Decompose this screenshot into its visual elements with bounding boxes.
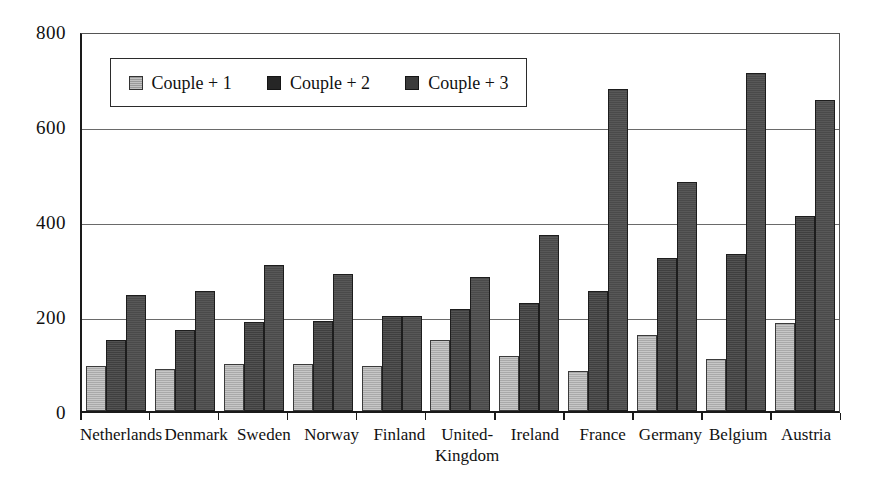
bar-3 [333,274,353,411]
legend-label-couple-1: Couple + 1 [152,74,232,92]
bar-1 [430,340,450,411]
bar-3 [402,316,422,411]
legend-item-couple-1: Couple + 1 [111,74,249,92]
bar-2 [382,316,402,411]
x-axis-category-label: Netherlands [80,424,162,474]
x-axis-tick [218,413,287,421]
x-axis-category-label: United- Kingdom [433,424,501,474]
x-axis-category-label: Germany [637,424,705,474]
chart-figure: 0200400600800 NetherlandsDenmarkSwedenNo… [0,0,874,477]
bar-1 [293,364,313,411]
bar-2 [726,254,746,411]
bar-1 [568,371,588,411]
y-axis-tick-labels: 0200400600800 [0,0,74,477]
x-axis-tick [425,413,494,421]
legend-swatch-icon-couple-3 [405,76,419,90]
y-axis-tick-label: 200 [36,308,66,327]
x-axis-tick [564,413,633,421]
x-axis-tick [633,413,702,421]
y-axis-tick-label: 800 [36,23,66,42]
bar-1 [775,323,795,411]
bar-3 [470,277,490,411]
bar-3 [608,89,628,411]
y-axis-tick-label: 600 [36,118,66,137]
bar-1 [86,366,106,411]
x-axis-tick [356,413,425,421]
bar-1 [706,359,726,411]
bar-3 [539,235,559,411]
legend-item-couple-3: Couple + 3 [388,74,526,92]
plot-wrapper: 0200400600800 NetherlandsDenmarkSwedenNo… [0,0,874,477]
bar-1 [362,366,382,411]
bar-1 [499,356,519,411]
x-axis-category-label: Finland [365,424,433,474]
bar-group [770,34,839,411]
legend-swatch-icon-couple-1 [129,76,143,90]
x-axis-category-label: Austria [772,424,840,474]
bar-2 [244,322,264,411]
x-axis-tick [771,413,840,421]
x-axis-category-label: Belgium [704,424,772,474]
legend-label-couple-2: Couple + 2 [290,74,370,92]
bar-3 [746,73,766,411]
bar-3 [264,265,284,411]
bar-1 [224,364,244,411]
x-axis-category-label: Denmark [162,424,230,474]
bar-2 [519,303,539,411]
bar-2 [795,216,815,411]
x-axis-tick [287,413,356,421]
x-axis-tick [149,413,218,421]
bar-3 [195,291,215,411]
x-axis-tick [702,413,771,421]
legend-item-couple-2: Couple + 2 [249,74,387,92]
legend-label-couple-3: Couple + 3 [428,74,508,92]
bar-2 [588,291,608,411]
x-axis-ticks [80,413,840,421]
bar-2 [313,321,333,411]
bar-group [633,34,702,411]
bar-group [701,34,770,411]
bar-2 [657,258,677,411]
bar-2 [175,330,195,411]
legend-swatch-icon-couple-2 [267,76,281,90]
y-axis-tick-label: 400 [36,213,66,232]
x-axis-category-labels: NetherlandsDenmarkSwedenNorwayFinlandUni… [80,424,840,474]
y-axis-tick-label: 0 [56,403,66,422]
bar-2 [450,309,470,411]
bar-group [564,34,633,411]
x-axis-tick [495,413,564,421]
bar-1 [155,369,175,411]
bar-3 [815,100,835,411]
bar-2 [106,340,126,411]
x-axis-category-label: France [569,424,637,474]
x-axis-tick [80,413,149,421]
x-axis-category-label: Sweden [230,424,298,474]
bar-3 [126,295,146,411]
bar-1 [637,335,657,411]
x-axis-category-label: Ireland [501,424,569,474]
bar-3 [677,182,697,411]
x-axis-category-label: Norway [298,424,366,474]
chart-legend: Couple + 1 Couple + 2 Couple + 3 [110,58,527,107]
